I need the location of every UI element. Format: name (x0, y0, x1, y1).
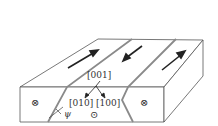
into-page-symbol-right: ⊗ (140, 98, 148, 108)
out-of-page-symbol: ⊙ (90, 110, 98, 120)
into-page-symbol-left: ⊗ (31, 98, 39, 108)
axis-010-label: [010] (69, 99, 93, 108)
axis-001-label: [001] (87, 71, 111, 80)
axis-100-label: [100] (96, 99, 120, 108)
angle-psi-label: ψ (64, 110, 71, 119)
slab-outline (20, 39, 203, 122)
